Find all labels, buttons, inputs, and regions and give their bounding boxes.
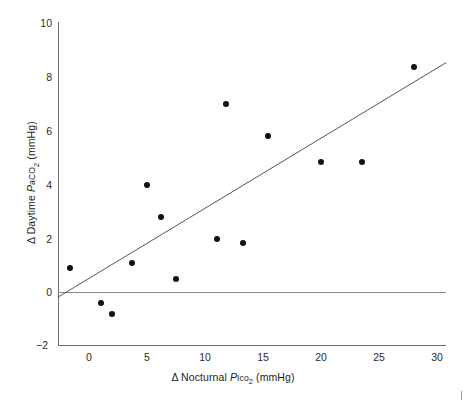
data-point bbox=[98, 300, 104, 306]
y-title-delta: Δ bbox=[25, 237, 37, 244]
data-point bbox=[318, 159, 324, 165]
page-corner-mark bbox=[461, 391, 462, 400]
data-point bbox=[158, 214, 164, 220]
data-point bbox=[411, 64, 417, 70]
x-title-units: (mmHg) bbox=[256, 371, 295, 383]
data-point bbox=[144, 182, 150, 188]
x-tick-label-15: 15 bbox=[248, 351, 278, 363]
data-point bbox=[240, 240, 246, 246]
y-tick-label-minus-2: −2 bbox=[22, 339, 48, 351]
data-points-layer bbox=[58, 22, 446, 346]
x-title-symbol-sub: Ico bbox=[237, 373, 249, 383]
data-point bbox=[214, 236, 220, 242]
y-title-symbol-num: 2 bbox=[32, 163, 41, 167]
data-point bbox=[109, 311, 115, 317]
y-axis-title: Δ Daytime PaCO2 (mmHg) bbox=[25, 33, 40, 333]
data-point bbox=[67, 265, 73, 271]
data-point bbox=[223, 101, 229, 107]
y-title-units: (mmHg) bbox=[25, 121, 37, 160]
x-title-word: Nocturnal bbox=[181, 371, 227, 383]
x-title-symbol-p: P bbox=[230, 371, 237, 383]
data-point bbox=[129, 260, 135, 266]
y-tick-label-10: 10 bbox=[26, 17, 52, 29]
data-point bbox=[359, 159, 365, 165]
y-title-symbol-p: P bbox=[25, 185, 37, 192]
x-title-delta: Δ bbox=[171, 371, 178, 383]
x-tick-label-5: 5 bbox=[132, 351, 162, 363]
x-tick-label-20: 20 bbox=[306, 351, 336, 363]
y-title-word: Daytime bbox=[25, 195, 37, 234]
x-tick-label-10: 10 bbox=[190, 351, 220, 363]
scatter-plot-figure: 10 8 6 4 2 0 −2 0 5 10 15 20 25 30 Δ Noc… bbox=[0, 0, 466, 406]
data-point bbox=[173, 276, 179, 282]
x-tick-label-25: 25 bbox=[364, 351, 394, 363]
x-axis-title: Δ Nocturnal PIco2 (mmHg) bbox=[0, 371, 466, 386]
data-point bbox=[265, 133, 271, 139]
x-tick-label-0: 0 bbox=[74, 351, 104, 363]
x-tick-label-30: 30 bbox=[422, 351, 452, 363]
y-title-symbol-co: CO bbox=[27, 167, 37, 180]
y-title-symbol-a: a bbox=[27, 180, 37, 185]
x-title-symbol-num: 2 bbox=[249, 377, 253, 386]
